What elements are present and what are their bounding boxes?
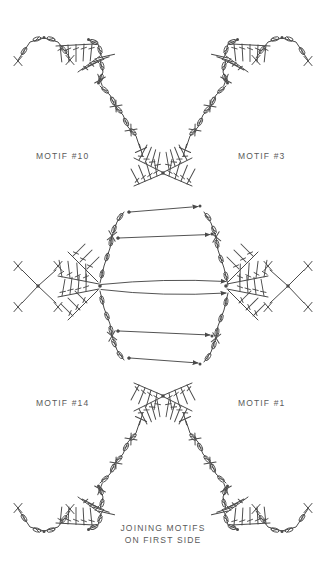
join-arrows: [101, 207, 226, 364]
crochet-chart-diagram: MOTIF #10 MOTIF #3 MOTIF #14 MOTIF #1 JO…: [0, 0, 326, 569]
motif-label-top-left: MOTIF #10: [36, 151, 89, 161]
motif-top-right-glyphs: [163, 36, 312, 186]
motif-label-bottom-right: MOTIF #1: [238, 398, 285, 408]
join-arrow-3: [101, 280, 226, 284]
join-arrow-1: [127, 207, 198, 214]
centre-ring: [99, 205, 228, 366]
join-arrow-6: [127, 356, 198, 363]
diagram-caption: JOINING MOTIFS ON FIRST SIDE: [0, 523, 326, 546]
motif-top-left-glyphs: [14, 36, 163, 186]
motif-label-bottom-left: MOTIF #14: [36, 398, 89, 408]
bottom-hub-cluster: [161, 394, 165, 398]
diagram-canvas: [0, 0, 326, 569]
join-arrow-4: [101, 290, 226, 295]
diagram-ink: [14, 36, 312, 533]
caption-line-1: JOINING MOTIFS: [120, 523, 205, 533]
join-arrow-2: [116, 235, 210, 240]
join-arrow-5: [116, 329, 210, 335]
top-hub-cluster: [161, 171, 165, 175]
motif-label-top-right: MOTIF #3: [238, 151, 285, 161]
left-hub-cluster: [14, 242, 102, 320]
caption-line-2: ON FIRST SIDE: [0, 535, 326, 547]
right-hub-cluster: [224, 242, 312, 320]
